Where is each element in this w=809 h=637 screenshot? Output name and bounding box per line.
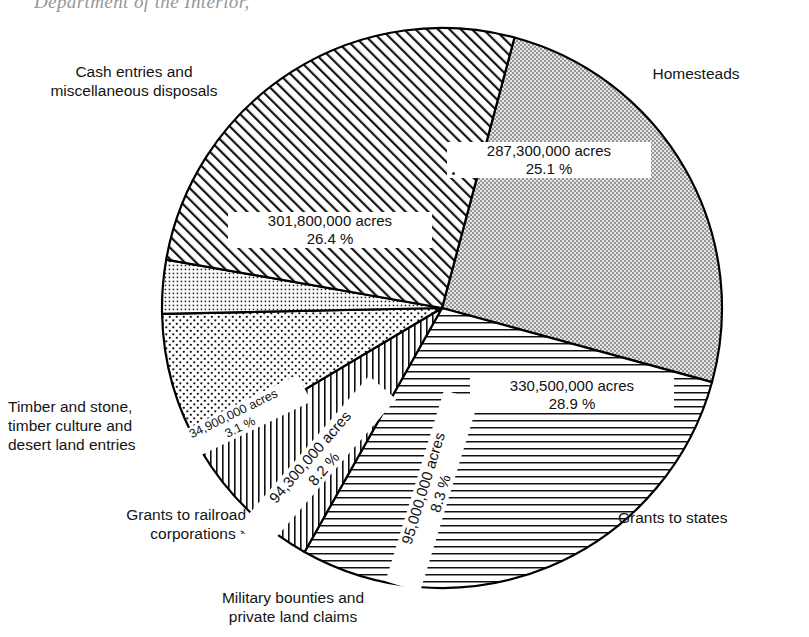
chart-canvas: Department of the Interior, — [0, 0, 809, 637]
slice-label-homesteads: Homesteads — [596, 64, 796, 83]
slice-label-grants-to-railroad: Grants to railroad corporations * — [28, 505, 246, 543]
slice-value-homesteads: 287,300,000 acres 25.1 % — [447, 142, 651, 178]
slice-value-grants-to-states: 330,500,000 acres 28.9 % — [470, 377, 674, 413]
slice-label-cash-entries: Cash entries and miscellaneous disposals — [16, 62, 252, 100]
slice-value-cash-entries: 301,800,000 acres 26.4 % — [228, 212, 432, 248]
slice-label-grants-to-states: Grants to states — [618, 508, 808, 527]
stray-dot-mark — [452, 172, 455, 175]
slice-label-military-bounties: Military bounties and private land claim… — [148, 588, 438, 626]
